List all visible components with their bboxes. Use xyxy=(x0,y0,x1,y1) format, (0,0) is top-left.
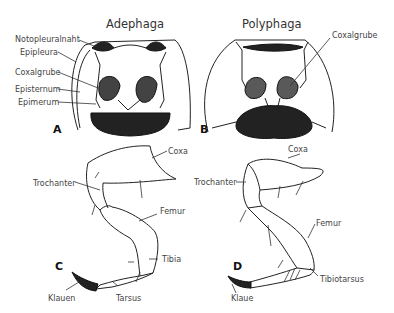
label-trochanter-d: Trochanter xyxy=(193,178,237,187)
label-femur-c: Femur xyxy=(160,207,186,216)
label-femur-d: Femur xyxy=(316,219,342,228)
label-notopleuralnaht: Notopleuralnaht xyxy=(15,35,80,44)
title-polyphaga: Polyphaga xyxy=(242,17,302,31)
label-coxalgrube-b: Coxalgrube xyxy=(332,31,378,40)
label-tibia: Tibia xyxy=(161,255,181,264)
adephaga-leg-drawing xyxy=(66,146,176,291)
label-epipleura: Epipleura xyxy=(20,48,58,57)
label-episternum: Episternum xyxy=(15,85,61,94)
panel-label-d: D xyxy=(233,260,242,273)
label-klauen: Klauen xyxy=(48,294,75,303)
adephaga-thorax-drawing xyxy=(58,40,190,136)
polyphaga-leg-drawing xyxy=(228,154,323,293)
label-klaue: Klaue xyxy=(231,294,253,303)
label-tibiotarsus: Tibiotarsus xyxy=(319,275,364,284)
panel-label-b: B xyxy=(200,123,208,136)
beetle-anatomy-diagram: Adephaga Polyphaga Notopleuralnaht Epipl… xyxy=(0,0,394,313)
label-epimerum: Epimerum xyxy=(18,98,59,107)
label-coxa-c: Coxa xyxy=(168,147,188,156)
polyphaga-thorax-drawing xyxy=(205,38,334,139)
label-coxa-d: Coxa xyxy=(288,145,308,154)
panel-label-c: C xyxy=(55,260,63,273)
label-trochanter-c: Trochanter xyxy=(32,179,76,188)
panel-label-a: A xyxy=(53,123,62,136)
label-tarsus: Tarsus xyxy=(115,294,141,303)
label-coxalgrube-a: Coxalgrube xyxy=(15,68,61,77)
title-adephaga: Adephaga xyxy=(106,17,164,31)
